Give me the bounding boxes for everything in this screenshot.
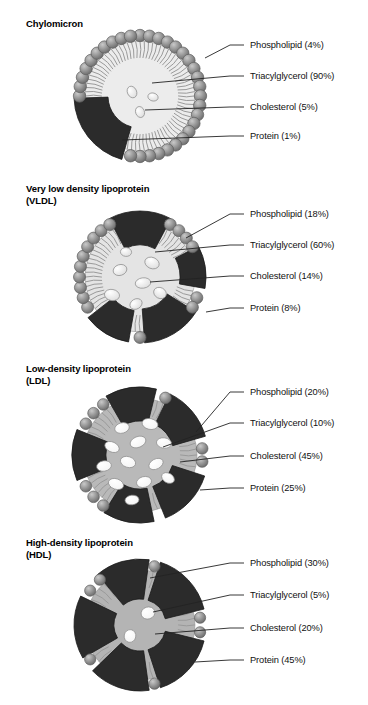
phospholipid-head	[196, 456, 208, 468]
callout-label-chylomicron-1: Triacylglycerol (90%)	[250, 71, 334, 81]
phospholipid-head	[88, 491, 100, 503]
phospholipid-head	[74, 282, 86, 294]
callout-label-vldl-3: Protein (8%)	[250, 303, 300, 313]
phospholipid-head	[149, 678, 160, 689]
phospholipid-head	[186, 301, 198, 313]
phospholipid-head	[196, 443, 208, 455]
phospholipid-head	[74, 271, 86, 283]
phospholipid-head	[85, 585, 96, 596]
phospholipid-head	[80, 418, 92, 430]
callout-label-ldl-3: Protein (25%)	[250, 483, 306, 493]
phospholipid-head	[124, 150, 136, 162]
phospholipid-head	[134, 332, 146, 344]
phospholipid-head	[80, 480, 92, 492]
callout-label-chylomicron-3: Protein (1%)	[250, 131, 300, 141]
callout-label-hdl-3: Protein (45%)	[250, 655, 306, 665]
callout-label-chylomicron-0: Phospholipid (4%)	[250, 40, 324, 50]
callout-label-vldl-2: Cholesterol (14%)	[250, 271, 323, 281]
phospholipid-head	[97, 500, 109, 512]
phospholipid-head	[194, 612, 205, 623]
callout-label-hdl-1: Triacylglycerol (5%)	[250, 590, 329, 600]
callout-label-vldl-0: Phospholipid (18%)	[250, 209, 329, 219]
phospholipid-head	[124, 30, 136, 42]
callout-label-ldl-2: Cholesterol (45%)	[250, 451, 323, 461]
lipoprotein-diagram: ChylomicronPhospholipid (4%)Triacylglyce…	[0, 0, 368, 705]
phospholipid-head	[88, 407, 100, 419]
phospholipid-head	[149, 561, 160, 572]
phospholipid-head	[186, 241, 198, 253]
phospholipid-head	[85, 654, 96, 665]
callout-label-chylomicron-2: Cholesterol (5%)	[250, 102, 318, 112]
callout-label-hdl-0: Phospholipid (30%)	[250, 558, 329, 568]
phospholipid-head	[97, 399, 109, 411]
callout-label-ldl-1: Triacylglycerol (10%)	[250, 418, 334, 428]
particle-hdl	[32, 517, 248, 705]
callout-label-vldl-1: Triacylglycerol (60%)	[250, 240, 334, 250]
callout-label-hdl-2: Cholesterol (20%)	[250, 623, 323, 633]
phospholipid-head	[94, 574, 105, 585]
phospholipid-head	[194, 627, 205, 638]
phospholipid-head	[104, 219, 116, 231]
phospholipid-head	[160, 392, 172, 404]
callout-label-ldl-0: Phospholipid (20%)	[250, 387, 329, 397]
